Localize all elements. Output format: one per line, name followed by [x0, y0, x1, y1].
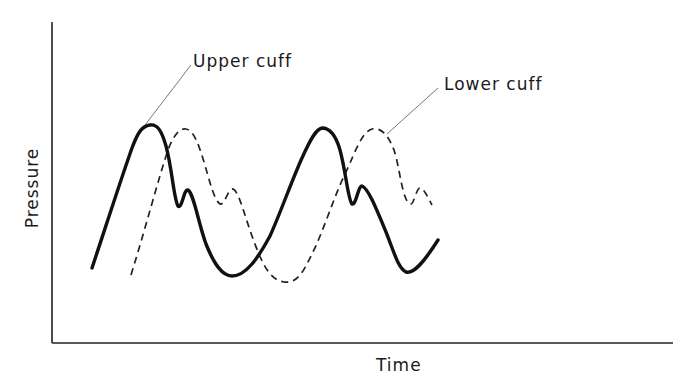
annotation-upper-cuff: Upper cuff	[193, 51, 292, 71]
annotation-lower-cuff: Lower cuff	[444, 74, 542, 94]
y-axis-label: Pressure	[22, 143, 42, 233]
leader-line-lower	[387, 88, 438, 134]
series-upper-cuff	[92, 125, 438, 276]
leader-line-upper	[145, 65, 191, 125]
chart-canvas	[0, 0, 696, 384]
pressure-time-chart: Upper cuff Lower cuff Pressure Time	[0, 0, 696, 384]
x-axis-label: Time	[376, 355, 422, 375]
